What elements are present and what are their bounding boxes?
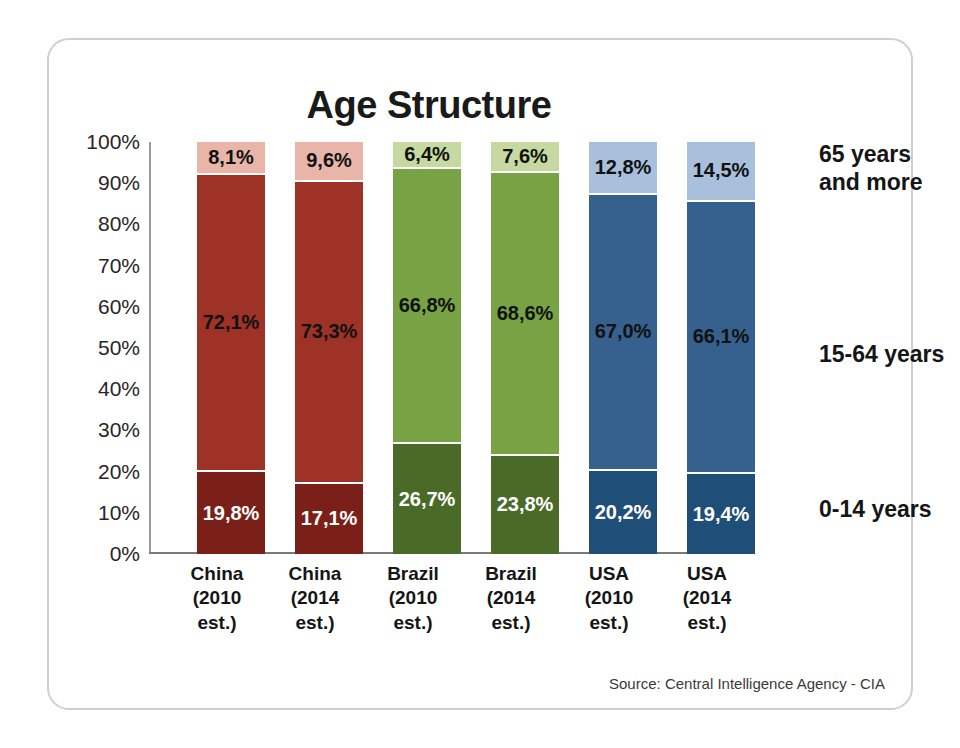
bar-segment-value: 66,8% [399, 294, 456, 317]
y-axis-tick-label: 100% [54, 130, 140, 154]
legend-label-line: 15-64 years [819, 340, 960, 368]
y-axis-tick-label: 10% [54, 501, 140, 525]
y-axis-tick-label: 40% [54, 377, 140, 401]
bar-segment-0-14-usa-2010[interactable]: 20,2% [589, 471, 657, 554]
bar-segment-value: 68,6% [497, 302, 554, 325]
stacked-bar-brazil-2010[interactable]: 26,7%66,8%6,4% [393, 142, 461, 554]
category-label-line: (2010 [365, 586, 461, 610]
bar-segment-65-plus-usa-2010[interactable]: 12,8% [589, 142, 657, 195]
y-axis-tick-label: 70% [54, 254, 140, 278]
bar-segment-value: 66,1% [693, 325, 750, 348]
category-label-line: Brazil [463, 562, 559, 586]
page-title: Age Structure [49, 84, 809, 127]
legend-item[interactable]: 15-64 years [819, 340, 960, 368]
y-axis-tick-label: 30% [54, 418, 140, 442]
category-label-line: USA [659, 562, 755, 586]
bar-segment-15-64-usa-2014[interactable]: 66,1% [687, 202, 755, 474]
category-label-line: est.) [169, 611, 265, 635]
bar-segment-value: 17,1% [301, 507, 358, 530]
bar-segment-value: 14,5% [693, 159, 750, 182]
y-axis-tick-label: 60% [54, 295, 140, 319]
chart-card: Age Structure 100%90%80%70%60%50%40%30%2… [47, 38, 913, 710]
bar-segment-value: 7,6% [502, 145, 548, 168]
x-axis-category-label: Brazil(2014est.) [463, 562, 559, 635]
plot-area: 100%90%80%70%60%50%40%30%20%10%0% 19,8%7… [150, 142, 750, 554]
legend-label-line: and more [819, 168, 960, 196]
bar-segment-15-64-usa-2010[interactable]: 67,0% [589, 195, 657, 471]
bar-segment-value: 12,8% [595, 156, 652, 179]
stacked-bar-brazil-2014[interactable]: 23,8%68,6%7,6% [491, 142, 559, 554]
bar-segment-65-plus-brazil-2014[interactable]: 7,6% [491, 142, 559, 173]
y-axis-tick-label: 90% [54, 171, 140, 195]
y-axis-tick-label: 20% [54, 460, 140, 484]
bar-segment-65-plus-china-2010[interactable]: 8,1% [197, 142, 265, 175]
category-label-line: (2014 [659, 586, 755, 610]
category-label-line: est.) [365, 611, 461, 635]
category-label-line: (2014 [463, 586, 559, 610]
category-label-line: China [169, 562, 265, 586]
bar-segment-value: 67,0% [595, 320, 652, 343]
bar-segment-0-14-usa-2014[interactable]: 19,4% [687, 474, 755, 554]
x-axis-category-label: China(2010est.) [169, 562, 265, 635]
bar-segment-0-14-brazil-2010[interactable]: 26,7% [393, 444, 461, 554]
bar-segment-65-plus-brazil-2010[interactable]: 6,4% [393, 142, 461, 168]
legend-item[interactable]: 65 yearsand more [819, 140, 960, 196]
bar-segment-value: 19,4% [693, 503, 750, 526]
bar-segment-value: 6,4% [404, 143, 450, 166]
category-label-line: est.) [659, 611, 755, 635]
stacked-bar-usa-2010[interactable]: 20,2%67,0%12,8% [589, 142, 657, 554]
x-axis-category-label: Brazil(2010est.) [365, 562, 461, 635]
source-note: Source: Central Intelligence Agency - CI… [609, 675, 885, 692]
category-label-line: China [267, 562, 363, 586]
bar-segment-15-64-brazil-2010[interactable]: 66,8% [393, 169, 461, 444]
y-axis-tick-label: 50% [54, 336, 140, 360]
bar-segment-value: 20,2% [595, 501, 652, 524]
bar-segment-0-14-china-2010[interactable]: 19,8% [197, 472, 265, 554]
bar-segment-15-64-china-2014[interactable]: 73,3% [295, 182, 363, 484]
category-label-line: Brazil [365, 562, 461, 586]
category-label-line: (2010 [169, 586, 265, 610]
bar-segment-0-14-brazil-2014[interactable]: 23,8% [491, 456, 559, 554]
bar-segment-value: 19,8% [203, 502, 260, 525]
y-axis-tick-label: 0% [54, 542, 140, 566]
stacked-bar-china-2014[interactable]: 17,1%73,3%9,6% [295, 142, 363, 554]
bar-segment-0-14-china-2014[interactable]: 17,1% [295, 484, 363, 554]
x-axis-category-label: USA(2014est.) [659, 562, 755, 635]
y-axis-tick-label: 80% [54, 212, 140, 236]
bar-segment-65-plus-china-2014[interactable]: 9,6% [295, 142, 363, 182]
category-label-line: est.) [463, 611, 559, 635]
x-axis-category-label: China(2014est.) [267, 562, 363, 635]
category-label-line: (2014 [267, 586, 363, 610]
x-axis-category-label: USA(2010est.) [561, 562, 657, 635]
bar-segment-65-plus-usa-2014[interactable]: 14,5% [687, 142, 755, 202]
legend-label-line: 0-14 years [819, 495, 960, 523]
bar-segment-value: 26,7% [399, 488, 456, 511]
category-label-line: est.) [561, 611, 657, 635]
category-label-line: (2010 [561, 586, 657, 610]
category-label-line: est.) [267, 611, 363, 635]
stacked-bar-usa-2014[interactable]: 19,4%66,1%14,5% [687, 142, 755, 554]
bar-segment-15-64-brazil-2014[interactable]: 68,6% [491, 173, 559, 456]
category-label-line: USA [561, 562, 657, 586]
bar-segment-value: 9,6% [306, 149, 352, 172]
legend-label-line: 65 years [819, 140, 960, 168]
bar-segment-value: 72,1% [203, 311, 260, 334]
legend-item[interactable]: 0-14 years [819, 495, 960, 523]
bar-segment-value: 23,8% [497, 493, 554, 516]
bar-segment-value: 73,3% [301, 320, 358, 343]
bar-segment-value: 8,1% [208, 146, 254, 169]
stacked-bar-china-2010[interactable]: 19,8%72,1%8,1% [197, 142, 265, 554]
bar-segment-15-64-china-2010[interactable]: 72,1% [197, 175, 265, 472]
